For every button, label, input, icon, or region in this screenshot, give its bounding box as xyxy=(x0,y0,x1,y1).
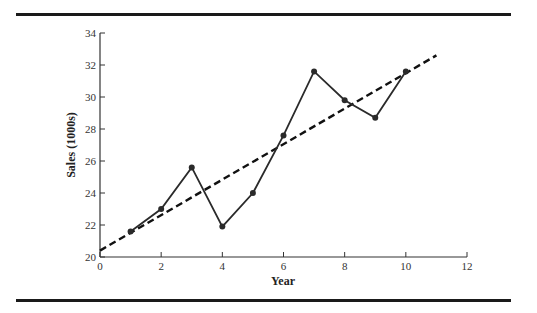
y-tick-label: 34 xyxy=(85,27,97,39)
sales-line xyxy=(131,71,406,231)
data-point xyxy=(250,190,256,196)
x-axis-title: Year xyxy=(271,274,296,288)
y-tick-label: 32 xyxy=(85,59,96,71)
sales-chart: 2022242628303234024681012 Year Sales (10… xyxy=(0,0,537,313)
x-tick-label: 4 xyxy=(220,260,226,272)
y-tick-label: 30 xyxy=(85,91,97,103)
data-point xyxy=(128,228,134,234)
x-tick-label: 8 xyxy=(342,260,348,272)
bottom-rule xyxy=(16,299,511,302)
data-point xyxy=(342,97,348,103)
y-tick-label: 22 xyxy=(85,219,96,231)
y-tick-label: 20 xyxy=(85,251,97,263)
x-tick-label: 12 xyxy=(462,260,473,272)
y-tick-label: 26 xyxy=(85,155,97,167)
axes: 2022242628303234024681012 xyxy=(85,27,473,272)
data-point xyxy=(189,164,195,170)
data-point xyxy=(372,115,378,121)
data-point xyxy=(219,224,225,230)
x-tick-label: 10 xyxy=(400,260,412,272)
y-axis-title: Sales (1000s) xyxy=(64,112,78,178)
y-tick-label: 24 xyxy=(85,187,97,199)
x-tick-label: 6 xyxy=(281,260,287,272)
data-point xyxy=(403,68,409,74)
data-point xyxy=(158,206,164,212)
x-tick-label: 2 xyxy=(158,260,164,272)
data-point xyxy=(311,68,317,74)
trend-line xyxy=(100,55,436,250)
y-tick-label: 28 xyxy=(85,123,97,135)
data-point xyxy=(281,132,287,138)
x-tick-label: 0 xyxy=(97,260,103,272)
series-layer xyxy=(100,55,436,250)
